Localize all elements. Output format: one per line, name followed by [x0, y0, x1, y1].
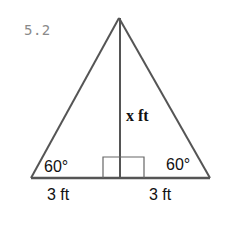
angle-left-label: 60° — [44, 159, 68, 175]
height-label: x ft — [126, 108, 149, 124]
triangle-left-side — [31, 18, 119, 178]
triangle-right-side — [119, 18, 210, 178]
base-right-label: 3 ft — [149, 187, 171, 203]
base-left-label: 3 ft — [47, 187, 69, 203]
right-angle-marker — [103, 157, 144, 178]
angle-right-label: 60° — [166, 157, 190, 173]
triangle-figure — [0, 0, 225, 227]
